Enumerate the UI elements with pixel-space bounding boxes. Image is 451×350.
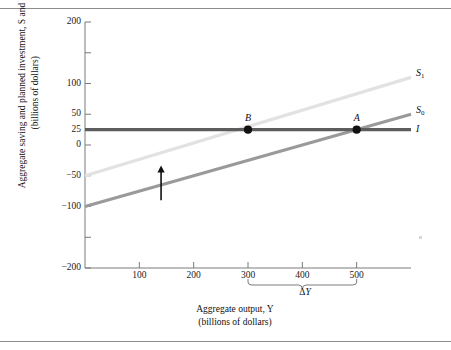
curve-label-s1: S1 — [416, 68, 425, 78]
bottom-rule — [0, 341, 451, 342]
plot-area — [85, 22, 411, 268]
y-axis-tick-labels: −200−100−5002550100200 — [48, 22, 81, 268]
y-axis-title-line1: Aggregate saving and planned investment,… — [17, 0, 27, 188]
curve-label-subscript: 1 — [421, 72, 425, 80]
point-label-a: A — [354, 113, 360, 123]
shift-arrow — [157, 166, 164, 201]
y-axis-title-line2: (billions of dollars) — [29, 0, 42, 198]
curve-label-s0: S0 — [416, 105, 425, 115]
x-axis-title: Aggregate output, Y (billions of dollars… — [150, 303, 320, 329]
x-axis-title-line2: (billions of dollars) — [150, 316, 320, 329]
y-tick-label: 100 — [67, 79, 81, 89]
annotations-layer — [85, 22, 411, 268]
y-axis-title: Aggregate saving and planned investment,… — [16, 0, 42, 198]
figure-container: Aggregate saving and planned investment,… — [0, 0, 451, 350]
delta-y-brace — [85, 278, 411, 294]
y-tick-label: 200 — [67, 17, 81, 27]
y-tick-label: 0 — [76, 140, 81, 150]
y-tick-label: 25 — [72, 125, 82, 135]
top-rule — [0, 8, 451, 9]
delta-y-variable: Y — [305, 287, 310, 297]
y-tick-label: −200 — [61, 263, 81, 273]
point-label-b: B — [245, 113, 251, 123]
page-speck — [419, 236, 422, 239]
y-tick-label: 50 — [72, 109, 82, 119]
curve-label-subscript: 0 — [421, 109, 425, 117]
x-axis-title-line1: Aggregate output, Y — [196, 304, 273, 314]
curve-label-i: I — [416, 124, 419, 134]
y-tick-label: −50 — [66, 171, 81, 181]
curve-label-base: I — [416, 123, 419, 134]
delta-y-label: ΔY — [285, 288, 325, 298]
y-tick-label: −100 — [61, 202, 81, 212]
